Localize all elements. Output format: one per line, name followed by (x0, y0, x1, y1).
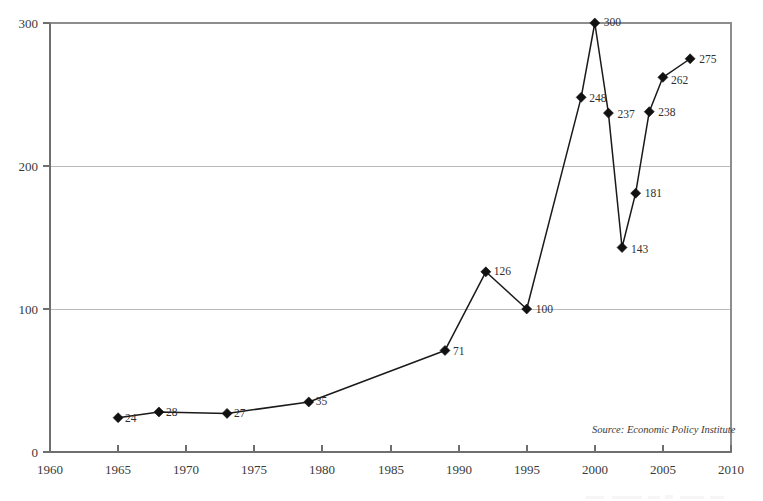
x-tick-label-1975: 1975 (241, 462, 267, 477)
x-tick-label-1985: 1985 (378, 462, 404, 477)
data-point-label: 238 (658, 106, 676, 118)
x-tick-label-2010: 2010 (718, 462, 744, 477)
data-point-label: 262 (671, 74, 689, 86)
x-tick-label-2000: 2000 (582, 462, 608, 477)
data-point-label: 248 (589, 92, 607, 104)
x-tick-label-1960: 1960 (37, 462, 63, 477)
y-tick-label-100: 100 (19, 302, 39, 317)
x-tick-label-1990: 1990 (446, 462, 472, 477)
data-point-label: 275 (699, 53, 717, 65)
data-point-label: 27 (234, 407, 246, 419)
data-point-label: 126 (494, 265, 512, 277)
data-point-label: 300 (604, 16, 622, 28)
y-tick-label-300: 300 (19, 16, 39, 31)
plot-background (50, 23, 731, 452)
x-tick-label-1980: 1980 (309, 462, 335, 477)
data-point-label: 143 (631, 243, 649, 255)
bottom-edge-artifact (586, 495, 724, 499)
x-tick-label-2005: 2005 (650, 462, 676, 477)
data-point-label: 237 (617, 108, 635, 120)
y-tick-label-0: 0 (32, 445, 39, 460)
data-point-label: 100 (536, 303, 554, 315)
line-chart: 0 100 200 300 1960 1965 1970 1975 1980 1… (0, 0, 763, 501)
x-tick-label-1970: 1970 (173, 462, 199, 477)
data-point-label: 71 (453, 345, 465, 357)
y-tick-label-200: 200 (19, 159, 39, 174)
x-tick-label-1965: 1965 (105, 462, 131, 477)
data-point-label: 28 (166, 406, 178, 418)
data-point-label: 181 (645, 187, 663, 199)
data-point-label: 24 (125, 412, 137, 424)
source-note: Source: Economic Policy Institute (592, 424, 736, 435)
x-tick-label-1995: 1995 (514, 462, 540, 477)
data-point-label: 35 (316, 395, 328, 407)
